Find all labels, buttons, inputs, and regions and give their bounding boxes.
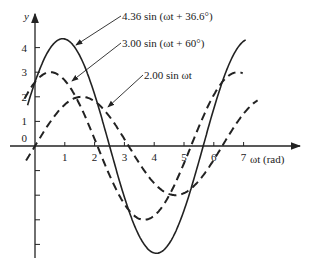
x-axis-label: ωt (rad) xyxy=(250,153,285,166)
y-tick-label: 4 xyxy=(22,42,28,54)
annotation-label: 3.00 sin (ωt + 60°) xyxy=(122,37,205,50)
x-tick-label: 4 xyxy=(151,151,157,163)
x-tick-label: 7 xyxy=(241,151,247,163)
sinusoid-plot: 123456701234yωt (rad) 4.36 sin (ωt + 36.… xyxy=(0,0,322,274)
annotation-label: 2.00 sin ωt xyxy=(144,69,192,81)
y-tick-label: 3 xyxy=(22,66,28,78)
annotation-arrow xyxy=(108,75,143,107)
chart: 123456701234yωt (rad) 4.36 sin (ωt + 36.… xyxy=(0,0,322,274)
x-tick-label: 3 xyxy=(122,151,128,163)
annotation-label: 4.36 sin (ωt + 36.6°) xyxy=(122,10,213,23)
x-tick-label: 2 xyxy=(92,151,98,163)
x-tick-label: 1 xyxy=(62,151,68,163)
y-tick-label: 1 xyxy=(22,115,28,127)
annotation-arrow xyxy=(76,16,121,45)
annotations: 4.36 sin (ωt + 36.6°)3.00 sin (ωt + 60°)… xyxy=(72,10,213,107)
y-tick-label: 0 xyxy=(22,132,28,144)
annotation-arrow xyxy=(72,43,121,81)
y-axis-label: y xyxy=(23,10,29,22)
